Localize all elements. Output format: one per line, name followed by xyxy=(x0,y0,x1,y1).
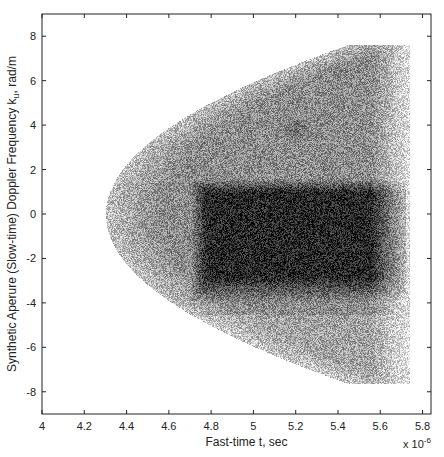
x-tick-label: 4.2 xyxy=(77,420,92,432)
x-exponent-power: -6 xyxy=(424,436,432,445)
y-tick-label: -4 xyxy=(26,297,36,309)
x-tick-label: 5.8 xyxy=(415,420,430,432)
x-tick-label: 4.8 xyxy=(203,420,218,432)
y-tick-label: -2 xyxy=(26,252,36,264)
x-tick-label: 5 xyxy=(250,420,256,432)
x-tick-label: 4.4 xyxy=(119,420,134,432)
chart: 44.24.44.64.855.25.45.65.8 86420-2-4-6-8… xyxy=(0,0,444,457)
y-axis-label-units: , rad/m xyxy=(5,56,19,93)
x-exponent-label: x 10-6 xyxy=(403,436,431,450)
x-tick-label: 5.6 xyxy=(373,420,388,432)
heatmap-image xyxy=(42,14,431,414)
x-axis-label: Fast-time t, sec xyxy=(205,435,287,449)
y-tick-label: -6 xyxy=(26,341,36,353)
x-tick-label: 4 xyxy=(39,420,45,432)
y-tick-label: 4 xyxy=(30,119,36,131)
y-axis-label: Synthetic Aperure (Slow-time) Doppler Fr… xyxy=(5,56,21,372)
x-tick-label: 5.4 xyxy=(330,420,345,432)
x-tick-label: 5.2 xyxy=(288,420,303,432)
y-tick-label: 6 xyxy=(30,75,36,87)
y-tick-label: 2 xyxy=(30,164,36,176)
y-tick-label: 0 xyxy=(30,208,36,220)
y-axis-label-main: Synthetic Aperure (Slow-time) Doppler Fr… xyxy=(5,97,19,371)
x-exponent-base: x 10 xyxy=(403,438,424,450)
heatmap-raster xyxy=(42,14,431,414)
x-tick-label: 4.6 xyxy=(161,420,176,432)
y-tick-label: 8 xyxy=(30,30,36,42)
y-tick-label: -8 xyxy=(26,386,36,398)
